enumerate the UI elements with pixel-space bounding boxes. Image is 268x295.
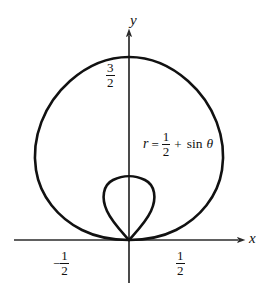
tick-label-x-negative-half: − 1 2 (53, 249, 69, 277)
y-axis-label: y (130, 12, 137, 28)
limacon-plot-svg (0, 0, 268, 295)
tick-label-x-positive-half: 1 2 (176, 249, 185, 277)
tick-label-y-three-halves: 3 2 (106, 61, 115, 89)
equation-label: r = 1 2 + sin θ (143, 130, 213, 158)
polar-curve-figure: y x 3 2 − 1 2 1 2 r = 1 2 + sin θ (0, 0, 268, 295)
x-axis-label: x (249, 230, 256, 246)
axes-group (14, 36, 238, 283)
